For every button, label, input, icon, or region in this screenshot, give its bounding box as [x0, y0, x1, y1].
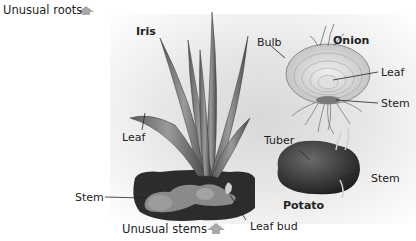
iris-title: Iris [136, 25, 156, 38]
potato-title: Potato [283, 199, 324, 212]
up-arrow-icon [207, 223, 225, 234]
onion-stem-label: Stem [381, 97, 410, 110]
roots-section-title: Unusual roots [3, 3, 82, 17]
onion-bulb-label: Bulb [257, 36, 282, 49]
onion-leaf-label: Leaf [381, 66, 404, 79]
onion-title: Onion [333, 34, 369, 47]
stems-section-title: Unusual stems [122, 222, 207, 236]
onion-roots [292, 100, 362, 134]
iris-stem-label: Stem [75, 191, 104, 204]
iris-leaf-label: Leaf [122, 131, 145, 144]
iris-leaf-bud-label: Leaf bud [250, 220, 298, 233]
potato-stem-label: Stem [371, 172, 400, 185]
potato-tuber-label: Tuber [264, 134, 294, 147]
